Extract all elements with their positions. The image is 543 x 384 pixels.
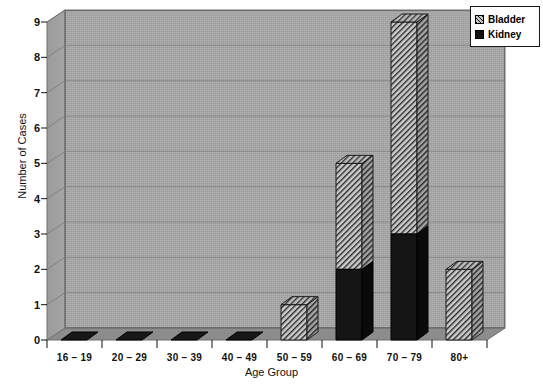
x-tick-30-39: 30 – 39 — [157, 352, 212, 363]
y-tick-labels: 0 1 2 3 4 5 6 7 8 9 — [0, 0, 543, 384]
x-tick-20-29: 20 – 29 — [102, 352, 157, 363]
solid-swatch-icon — [475, 30, 484, 39]
y-tick-1: 1 — [22, 300, 40, 310]
y-axis-title: Number of Cases — [16, 96, 28, 216]
legend-label-bladder: Bladder — [488, 14, 525, 25]
hatch-swatch-icon — [475, 15, 484, 24]
x-tick-16-19: 16 – 19 — [47, 352, 102, 363]
y-tick-2: 2 — [22, 264, 40, 274]
legend-label-kidney: Kidney — [488, 29, 521, 40]
y-tick-0: 0 — [22, 335, 40, 345]
y-tick-3: 3 — [22, 229, 40, 239]
x-tick-80-plus: 80+ — [432, 352, 487, 363]
legend-item-bladder[interactable]: Bladder — [475, 12, 535, 26]
x-tick-70-79: 70 – 79 — [377, 352, 432, 363]
chart-legend: Bladder Kidney — [470, 6, 540, 47]
x-tick-50-59: 50 – 59 — [267, 352, 322, 363]
y-tick-9: 9 — [22, 17, 40, 27]
chart-canvas: 0 1 2 3 4 5 6 7 8 9 16 – 19 20 – 29 30 –… — [0, 0, 543, 384]
x-tick-60-69: 60 – 69 — [322, 352, 377, 363]
legend-item-kidney[interactable]: Kidney — [475, 27, 535, 41]
x-tick-40-49: 40 – 49 — [212, 352, 267, 363]
y-tick-8: 8 — [22, 52, 40, 62]
x-axis-title: Age Group — [0, 366, 543, 378]
